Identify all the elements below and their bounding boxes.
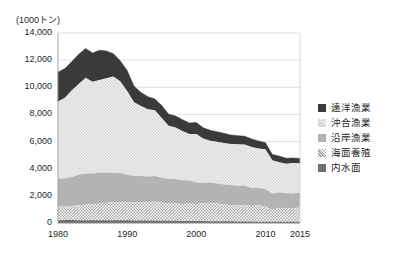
y-axis-tick-label: 0 (8, 217, 52, 227)
x-axis-tick-label: 2015 (280, 229, 320, 239)
x-axis-tick-label: 1990 (107, 229, 147, 239)
legend-swatch-icon (318, 164, 326, 172)
area-series-group (58, 48, 300, 223)
legend-item-label: 遠洋漁業 (331, 103, 371, 113)
legend-swatch-icon (318, 104, 326, 112)
legend-item[interactable]: 海面養殖 (318, 145, 414, 160)
legend-swatch-icon (318, 134, 326, 142)
legend-swatch-icon (318, 149, 326, 157)
x-axis-tick-label: 1980 (38, 229, 78, 239)
y-axis-tick-label: 12,000 (8, 54, 52, 64)
y-axis-tick-label: 8,000 (8, 108, 52, 118)
x-axis-tick-label: 2000 (176, 229, 216, 239)
y-axis-tick-label: 14,000 (8, 27, 52, 37)
y-axis-tick-label: 2,000 (8, 190, 52, 200)
legend-item[interactable]: 沖合漁業 (318, 115, 414, 130)
legend-item-label: 海面養殖 (331, 148, 371, 158)
legend-swatch-icon (318, 119, 326, 127)
y-axis-tick-label: 6,000 (8, 136, 52, 146)
fisheries-production-chart-figure: (1000トン) 14,00 (0, 0, 419, 259)
legend-item-label: 沿岸漁業 (331, 133, 371, 143)
legend-item[interactable]: 沿岸漁業 (318, 130, 414, 145)
legend-item[interactable]: 内水面 (318, 160, 414, 175)
legend-item-label: 内水面 (331, 163, 361, 173)
y-axis-tick-label: 4,000 (8, 163, 52, 173)
chart-legend: 遠洋漁業沖合漁業沿岸漁業海面養殖内水面 (318, 100, 414, 175)
y-axis-tick-label: 10,000 (8, 81, 52, 91)
legend-item[interactable]: 遠洋漁業 (318, 100, 414, 115)
legend-item-label: 沖合漁業 (331, 118, 371, 128)
